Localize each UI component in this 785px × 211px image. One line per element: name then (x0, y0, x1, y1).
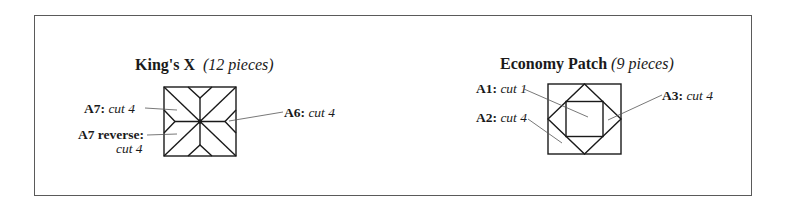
quilt-block-art (0, 0, 785, 211)
kings-x-center-dot (198, 119, 202, 123)
economy-patch-leaders (524, 89, 662, 143)
